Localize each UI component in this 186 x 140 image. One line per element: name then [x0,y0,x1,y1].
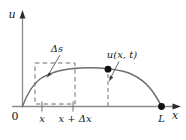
displacement-arrowhead [109,76,113,82]
displacement-point-marker [105,66,112,73]
tick-label-x: x [39,113,45,124]
axes-group [12,10,181,109]
figure-container: u x 0 x x + Δx L Δs u(x, t) [0,0,186,140]
u-axis-label: u [8,8,15,21]
delta-s-label: Δs [50,43,63,54]
origin-label: 0 [12,110,19,123]
u-axis-arrowhead [20,10,26,19]
endpoint-L-marker [158,103,165,110]
x-axis-label: x [172,109,179,122]
string-displacement-figure: u x 0 x x + Δx L Δs u(x, t) [0,0,186,140]
tick-label-x-plus-delta-x: x + Δx [58,113,92,124]
displacement-label: u(x, t) [107,49,137,60]
string-curve [23,68,162,107]
tick-label-L: L [157,113,165,124]
